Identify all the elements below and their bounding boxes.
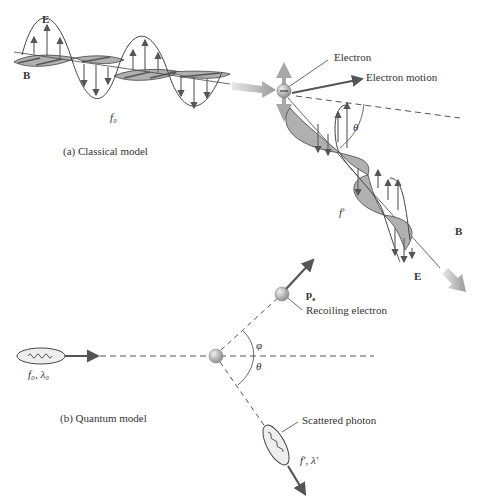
- incident-frequency-label: f₀: [110, 112, 117, 123]
- scattered-photon-params: f′, λ′: [300, 455, 318, 466]
- phi-angle-label: φ: [256, 340, 262, 351]
- scattered-photon-label: Scattered photon: [302, 415, 376, 426]
- incident-e-field-label: E: [42, 14, 49, 25]
- momentum-subscript: e: [312, 295, 315, 303]
- target-electron: [209, 349, 223, 363]
- scattered-direction-arrow: [442, 268, 466, 292]
- incident-direction-arrow: [232, 81, 276, 98]
- incident-photon-label: f₀, λ₀: [28, 369, 49, 380]
- theta-angle-label: θ: [256, 361, 261, 372]
- scattering-angle-label: θ: [353, 122, 358, 133]
- electron-label: Electron: [334, 52, 371, 63]
- electron-momentum-label: pe: [306, 289, 315, 303]
- incident-b-field-label: B: [23, 70, 30, 81]
- scattered-e-field-label: E: [414, 271, 421, 282]
- recoiling-electron-label: Recoiling electron: [306, 305, 387, 316]
- classical-model-caption: (a) Classical model: [63, 146, 148, 157]
- electron-motion-label: Electron motion: [366, 72, 437, 83]
- quantum-model-caption: (b) Quantum model: [60, 413, 147, 424]
- incident-wave: [14, 18, 230, 108]
- scattered-b-field-label: B: [455, 226, 462, 237]
- scattered-frequency-label: f′: [339, 207, 344, 218]
- scattered-photon: [258, 421, 305, 494]
- scattered-wave: [286, 98, 440, 268]
- incident-photon: [17, 348, 98, 364]
